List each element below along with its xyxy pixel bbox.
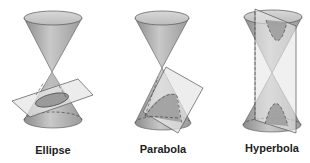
label-ellipse: Ellipse — [35, 144, 70, 156]
upper-cone — [24, 18, 82, 72]
ellipse-figure — [12, 11, 93, 128]
upper-cone — [135, 18, 189, 68]
cone-above-plane — [44, 72, 61, 87]
hyperbola-figure — [243, 9, 302, 133]
label-hyperbola: Hyperbola — [245, 142, 299, 154]
upper-cone-top — [24, 11, 82, 25]
label-parabola: Parabola — [140, 143, 186, 155]
parabola-figure — [135, 11, 203, 133]
conic-sections-diagram — [0, 0, 310, 163]
upper-cone-top — [135, 11, 189, 25]
